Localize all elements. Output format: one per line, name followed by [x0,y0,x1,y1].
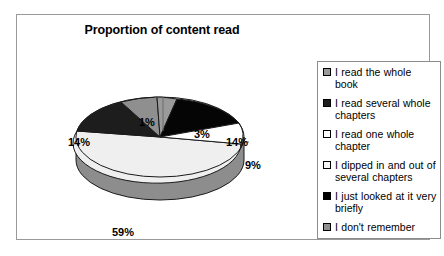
legend-item-whole-book[interactable]: I read the whole book [323,66,437,90]
legend-swatch-icon [323,99,331,107]
chart-frame: Proportion of content read [16,14,430,240]
legend-item-looked-briefly[interactable]: I just looked at it very briefly [323,190,437,214]
legend-item-one-whole-chapter[interactable]: I read one whole chapter [323,128,437,152]
data-label-14-percent-left: 14% [68,137,90,148]
legend-item-label: I dipped in and out of several chapters [335,159,437,183]
data-label-59-percent: 59% [112,227,134,238]
legend-item-label: I read the whole book [335,66,437,90]
legend-swatch-icon [323,130,331,138]
legend-swatch-icon [323,68,331,76]
legend-swatch-icon [323,223,331,231]
chart-title: Proportion of content read [17,23,307,37]
data-label-9-percent: 9% [245,160,261,171]
pie-plot-area: 1% 3% 14% 14% 9% 59% [17,41,303,239]
legend-item-label: I read several whole chapters [335,97,437,121]
legend-swatch-icon [323,161,331,169]
chart-screenshot: Proportion of content read [0,0,444,256]
legend-item-dipped-in-and-out[interactable]: I dipped in and out of several chapters [323,159,437,183]
pie-chart-graphic [17,41,303,239]
legend-item-several-whole-chapters[interactable]: I read several whole chapters [323,97,437,121]
legend-item-label: I read one whole chapter [335,128,437,152]
legend-item-label: I don't remember [335,221,415,233]
legend-item-dont-remember[interactable]: I don't remember [323,221,437,233]
data-label-14-percent-right: 14% [226,137,248,148]
legend-item-label: I just looked at it very briefly [335,190,437,214]
legend-swatch-icon [323,192,331,200]
data-label-3-percent: 3% [194,129,210,140]
chart-legend: I read the whole book I read several who… [317,61,441,239]
data-label-1-percent: 1% [139,117,155,128]
